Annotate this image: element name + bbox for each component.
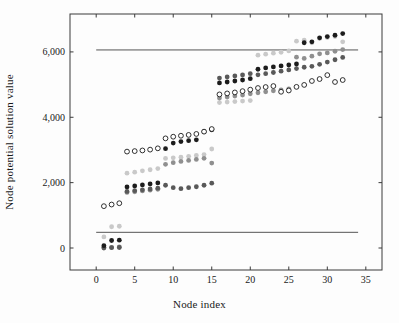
light-gray-solution-point [240,99,245,104]
black-solution-point [232,79,237,84]
medium-gray-solution-point [333,49,338,54]
light-gray-solution-point [140,168,145,173]
scatter-chart: 0510152025303502,0004,0006,000 Node inde… [0,0,399,323]
black-solution-point [317,35,322,40]
black-solution-point [325,34,330,39]
open-circle-solution-point [225,91,230,96]
light-gray-solution-point [256,53,261,58]
dark-gray-solution-point [232,74,237,79]
dark-gray-solution-point [163,183,168,188]
open-circle-solution-point [302,83,307,88]
black-solution-point [309,39,314,44]
dark-gray-solution-point [109,245,114,250]
dark-gray-solution-point [256,72,261,77]
black-solution-point [256,67,261,72]
light-gray-solution-point [163,156,168,161]
dark-gray-solution-point [186,185,191,190]
open-circle-solution-point [140,148,145,153]
black-solution-point [271,65,276,70]
x-tick-label: 15 [207,274,217,285]
medium-gray-solution-point [340,47,345,52]
medium-gray-solution-point [263,89,268,94]
dark-gray-solution-point [325,60,330,65]
medium-gray-solution-point [309,54,314,59]
dark-gray-solution-point [271,70,276,75]
dark-gray-solution-point [125,189,130,194]
black-solution-point [140,183,145,188]
black-solution-point [125,184,130,189]
y-tick-label: 2,000 [43,177,66,188]
light-gray-solution-point [109,224,114,229]
black-solution-point [163,146,168,151]
light-gray-solution-point [179,155,184,160]
black-solution-point [302,40,307,45]
black-solution-point [279,64,284,69]
medium-gray-solution-point [194,157,199,162]
medium-gray-solution-point [302,56,307,61]
black-solution-point [171,141,176,146]
dark-gray-solution-point [240,73,245,78]
light-gray-solution-point [186,154,191,159]
x-axis-label: Node index [0,298,399,310]
x-tick-label: 10 [168,274,178,285]
dark-gray-solution-point [340,55,345,60]
open-circle-solution-point [209,127,214,132]
light-gray-solution-point [117,224,122,229]
x-tick-label: 20 [245,274,255,285]
black-solution-point [155,181,160,186]
black-solution-point [186,138,191,143]
light-gray-solution-point [294,39,299,44]
open-circle-solution-point [340,78,345,83]
black-solution-point [333,33,338,38]
open-circle-solution-point [248,87,253,92]
open-circle-solution-point [240,89,245,94]
open-circle-solution-point [171,134,176,139]
light-gray-solution-point [263,52,268,57]
black-solution-point [179,139,184,144]
open-circle-solution-point [217,92,222,97]
light-gray-solution-point [271,51,276,56]
medium-gray-solution-point [294,55,299,60]
medium-gray-solution-point [202,156,207,161]
black-solution-point [225,80,230,85]
dark-gray-solution-point [171,185,176,190]
open-circle-solution-point [179,133,184,138]
medium-gray-solution-point [163,162,168,167]
y-tick-label: 4,000 [43,112,66,123]
black-solution-point [101,243,106,248]
dark-gray-solution-point [309,64,314,69]
open-circle-solution-point [271,84,276,89]
medium-gray-solution-point [171,160,176,165]
black-solution-point [217,81,222,86]
open-circle-solution-point [286,88,291,93]
light-gray-solution-point [340,39,345,44]
dark-gray-solution-point [194,184,199,189]
open-circle-solution-point [125,149,130,154]
medium-gray-solution-point [186,158,191,163]
dark-gray-solution-point [132,188,137,193]
plot-canvas: 0510152025303502,0004,0006,000 [0,0,399,323]
black-solution-point [117,238,122,243]
open-circle-solution-point [202,129,207,134]
dark-gray-solution-point [317,62,322,67]
dark-gray-solution-point [209,181,214,186]
open-circle-solution-point [194,132,199,137]
light-gray-solution-point [148,167,153,172]
dark-gray-solution-point [302,65,307,70]
black-solution-point [148,182,153,187]
medium-gray-solution-point [325,50,330,55]
light-gray-solution-point [279,50,284,55]
medium-gray-solution-point [209,161,214,166]
dark-gray-solution-point [155,186,160,191]
dark-gray-solution-point [225,75,230,80]
light-gray-solution-point [101,234,106,239]
open-circle-solution-point [232,90,237,95]
dark-gray-solution-point [202,183,207,188]
open-circle-solution-point [109,202,114,207]
dark-gray-solution-point [148,187,153,192]
black-solution-point [263,66,268,71]
black-solution-point [294,62,299,67]
open-circle-solution-point [279,89,284,94]
light-gray-solution-point [217,100,222,105]
light-gray-solution-point [125,171,130,176]
